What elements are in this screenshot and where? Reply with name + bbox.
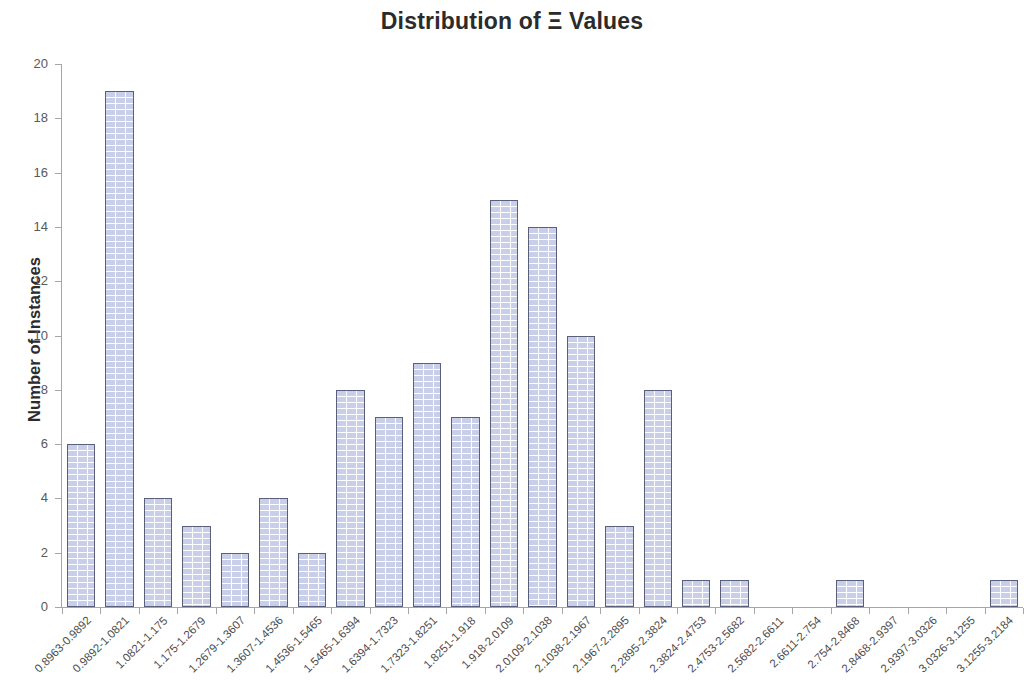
x-tick-mark <box>331 608 332 614</box>
x-tick-mark <box>523 608 524 614</box>
x-tick-mark <box>562 608 563 614</box>
x-tick-mark <box>754 608 755 614</box>
x-tick-mark <box>908 608 909 614</box>
y-tick-label: 14 <box>2 220 48 233</box>
histogram-bar[interactable] <box>567 336 595 608</box>
histogram-bar[interactable] <box>682 580 710 607</box>
y-tick-label: 16 <box>2 166 48 179</box>
x-tick-mark <box>177 608 178 614</box>
y-tick-mark <box>55 118 61 119</box>
y-tick-label: 6 <box>2 437 48 450</box>
y-tick-label: 18 <box>2 111 48 124</box>
x-axis-labels: 0.8963-0.98920.9892-1.08211.0821-1.1751.… <box>0 607 1024 693</box>
x-tick-mark <box>869 608 870 614</box>
y-tick-mark <box>55 64 61 65</box>
x-tick-mark <box>639 608 640 614</box>
y-tick-mark <box>55 281 61 282</box>
x-tick-mark <box>254 608 255 614</box>
x-tick-mark <box>139 608 140 614</box>
histogram-bar[interactable] <box>836 580 864 607</box>
y-tick-mark <box>55 390 61 391</box>
y-tick-mark <box>55 173 61 174</box>
histogram-bar[interactable] <box>221 553 249 607</box>
x-tick-mark <box>831 608 832 614</box>
histogram-bar[interactable] <box>644 390 672 607</box>
y-tick-mark <box>55 227 61 228</box>
histogram-bar[interactable] <box>720 580 748 607</box>
histogram-chart: Distribution of Ξ Values Number of Insta… <box>0 0 1024 693</box>
x-tick-mark <box>100 608 101 614</box>
histogram-bar[interactable] <box>451 417 479 607</box>
plot-area <box>62 64 1023 607</box>
x-tick-mark <box>370 608 371 614</box>
y-tick-label: 20 <box>2 57 48 70</box>
histogram-bar[interactable] <box>990 580 1018 607</box>
histogram-bar[interactable] <box>298 553 326 607</box>
histogram-bar[interactable] <box>182 526 210 607</box>
y-tick-label: 4 <box>2 491 48 504</box>
x-tick-mark <box>600 608 601 614</box>
x-tick-mark <box>485 608 486 614</box>
y-tick-label: 2 <box>2 546 48 559</box>
x-tick-mark <box>946 608 947 614</box>
histogram-bar[interactable] <box>528 227 556 607</box>
histogram-bar[interactable] <box>413 363 441 607</box>
histogram-bar[interactable] <box>67 444 95 607</box>
y-tick-label: 12 <box>2 274 48 287</box>
y-tick-label: 8 <box>2 383 48 396</box>
y-tick-label: 10 <box>2 329 48 342</box>
y-tick-mark <box>55 336 61 337</box>
x-tick-mark <box>446 608 447 614</box>
y-tick-mark <box>55 553 61 554</box>
histogram-bar[interactable] <box>144 498 172 607</box>
x-tick-mark <box>62 608 63 614</box>
x-tick-mark <box>677 608 678 614</box>
x-tick-mark <box>985 608 986 614</box>
histogram-bar[interactable] <box>105 91 133 607</box>
x-tick-mark <box>216 608 217 614</box>
histogram-bar[interactable] <box>336 390 364 607</box>
x-tick-mark <box>408 608 409 614</box>
histogram-bar[interactable] <box>375 417 403 607</box>
histogram-bar[interactable] <box>259 498 287 607</box>
y-tick-mark <box>55 607 61 608</box>
x-tick-mark <box>792 608 793 614</box>
chart-title: Distribution of Ξ Values <box>0 8 1024 35</box>
y-tick-mark <box>55 498 61 499</box>
x-tick-mark <box>715 608 716 614</box>
histogram-bar[interactable] <box>490 200 518 607</box>
y-tick-mark <box>55 444 61 445</box>
x-tick-mark <box>293 608 294 614</box>
histogram-bar[interactable] <box>605 526 633 607</box>
y-axis-ticks: 02468101214161820 <box>0 0 62 693</box>
